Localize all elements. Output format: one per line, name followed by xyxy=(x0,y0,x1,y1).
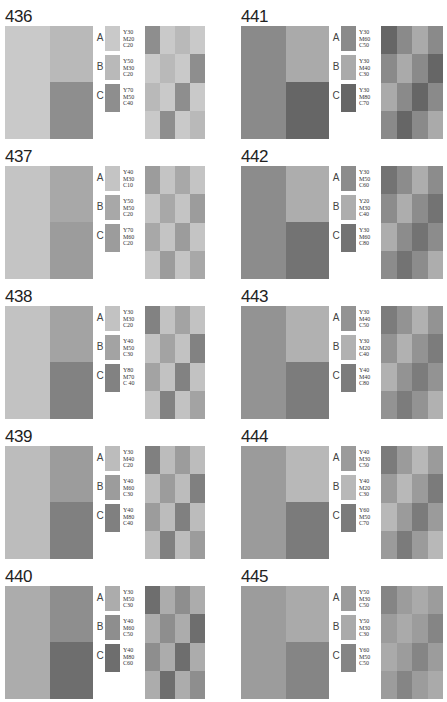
grid-cell xyxy=(381,54,397,82)
block-left xyxy=(5,586,50,699)
color-swatch-b xyxy=(341,615,356,640)
grid-cell xyxy=(412,446,428,474)
cmy-values: Y30M80C70 xyxy=(359,87,379,107)
swatch-letter: B xyxy=(95,61,105,72)
grid-cell xyxy=(412,334,428,362)
cmy-values: Y30M50C30 xyxy=(123,589,143,609)
swatch-letter: B xyxy=(95,481,105,492)
grid-cell xyxy=(190,643,205,671)
grid-cell xyxy=(428,26,444,54)
grid-cell xyxy=(428,251,444,279)
swatch-letter: B xyxy=(95,341,105,352)
grid-cell xyxy=(381,194,397,222)
grid-cell xyxy=(428,306,444,334)
cmy-value: C80 xyxy=(359,380,379,387)
color-swatch-a xyxy=(341,586,356,611)
color-swatch-b xyxy=(105,195,120,220)
checker-grid xyxy=(381,306,443,419)
grid-cell xyxy=(160,166,175,194)
grid-cell xyxy=(160,223,175,251)
grid-cell xyxy=(412,503,428,531)
grid-cell xyxy=(397,54,413,82)
checker-grid xyxy=(145,446,205,559)
cmy-value: C30 xyxy=(123,491,143,498)
grid-cell xyxy=(175,671,190,699)
swatch-letter: B xyxy=(95,201,105,212)
swatch-letter: B xyxy=(331,201,341,212)
color-swatch-a xyxy=(341,446,356,471)
grid-cell xyxy=(381,474,397,502)
grid-cell xyxy=(412,251,428,279)
color-panel-444: 444AY40M30C50BY40M20C30CY60M50C70 xyxy=(241,424,447,564)
grid-cell xyxy=(397,531,413,559)
grid-cell xyxy=(175,223,190,251)
grid-cell xyxy=(160,503,175,531)
grid-cell xyxy=(175,111,190,139)
grid-cell xyxy=(397,251,413,279)
grid-cell xyxy=(145,83,160,111)
grid-cell xyxy=(175,251,190,279)
swatch-letter: A xyxy=(331,592,341,603)
grid-cell xyxy=(175,26,190,54)
checker-grid xyxy=(381,446,443,559)
grid-cell xyxy=(160,26,175,54)
grid-cell xyxy=(190,586,205,614)
color-swatch-c xyxy=(341,224,356,252)
block-left xyxy=(241,306,286,419)
cmy-values: Y30M40C20 xyxy=(123,449,143,469)
block-right-bottom xyxy=(286,82,329,139)
grid-cell xyxy=(145,334,160,362)
checker-grid xyxy=(145,26,205,139)
grid-cell xyxy=(160,446,175,474)
color-swatch-a xyxy=(105,306,120,331)
block-left xyxy=(5,306,50,419)
grid-cell xyxy=(428,363,444,391)
grid-cell xyxy=(381,643,397,671)
grid-cell xyxy=(412,586,428,614)
swatch-letter: C xyxy=(331,510,341,521)
cmy-values: Y40M60C50 xyxy=(123,618,143,638)
grid-cell xyxy=(190,446,205,474)
grid-cell xyxy=(160,54,175,82)
grid-cell xyxy=(412,643,428,671)
combination-block xyxy=(241,166,329,279)
grid-cell xyxy=(381,531,397,559)
grid-cell xyxy=(381,586,397,614)
grid-cell xyxy=(175,166,190,194)
grid-cell xyxy=(160,306,175,334)
block-right-bottom xyxy=(50,642,93,699)
cmy-values: Y60M50C50 xyxy=(359,647,379,667)
panel-number: 440 xyxy=(5,568,32,586)
swatch-letter: C xyxy=(95,230,105,241)
grid-cell xyxy=(397,363,413,391)
grid-cell xyxy=(381,503,397,531)
grid-cell xyxy=(428,194,444,222)
color-swatch-b xyxy=(105,335,120,360)
cmy-value: C50 xyxy=(359,462,379,469)
cmy-value: C20 xyxy=(123,462,143,469)
cmy-value: C 40 xyxy=(123,380,143,387)
grid-cell xyxy=(428,83,444,111)
grid-cell xyxy=(145,586,160,614)
cmy-value: C20 xyxy=(123,42,143,49)
grid-cell xyxy=(412,166,428,194)
grid-cell xyxy=(190,83,205,111)
grid-cell xyxy=(160,251,175,279)
swatch-letter: C xyxy=(95,90,105,101)
swatch-letter: C xyxy=(331,230,341,241)
panel-number: 441 xyxy=(241,8,268,26)
grid-cell xyxy=(145,531,160,559)
grid-cell xyxy=(145,54,160,82)
block-right-top xyxy=(50,26,93,82)
grid-cell xyxy=(428,391,444,419)
block-right-top xyxy=(50,306,93,362)
cmy-value: C50 xyxy=(123,631,143,638)
grid-cell xyxy=(160,391,175,419)
cmy-value: C70 xyxy=(359,520,379,527)
grid-cell xyxy=(428,166,444,194)
block-right-bottom xyxy=(286,362,329,419)
grid-cell xyxy=(190,54,205,82)
cmy-values: Y30M20C40 xyxy=(359,338,379,358)
grid-cell xyxy=(145,26,160,54)
color-swatch-b xyxy=(341,475,356,500)
